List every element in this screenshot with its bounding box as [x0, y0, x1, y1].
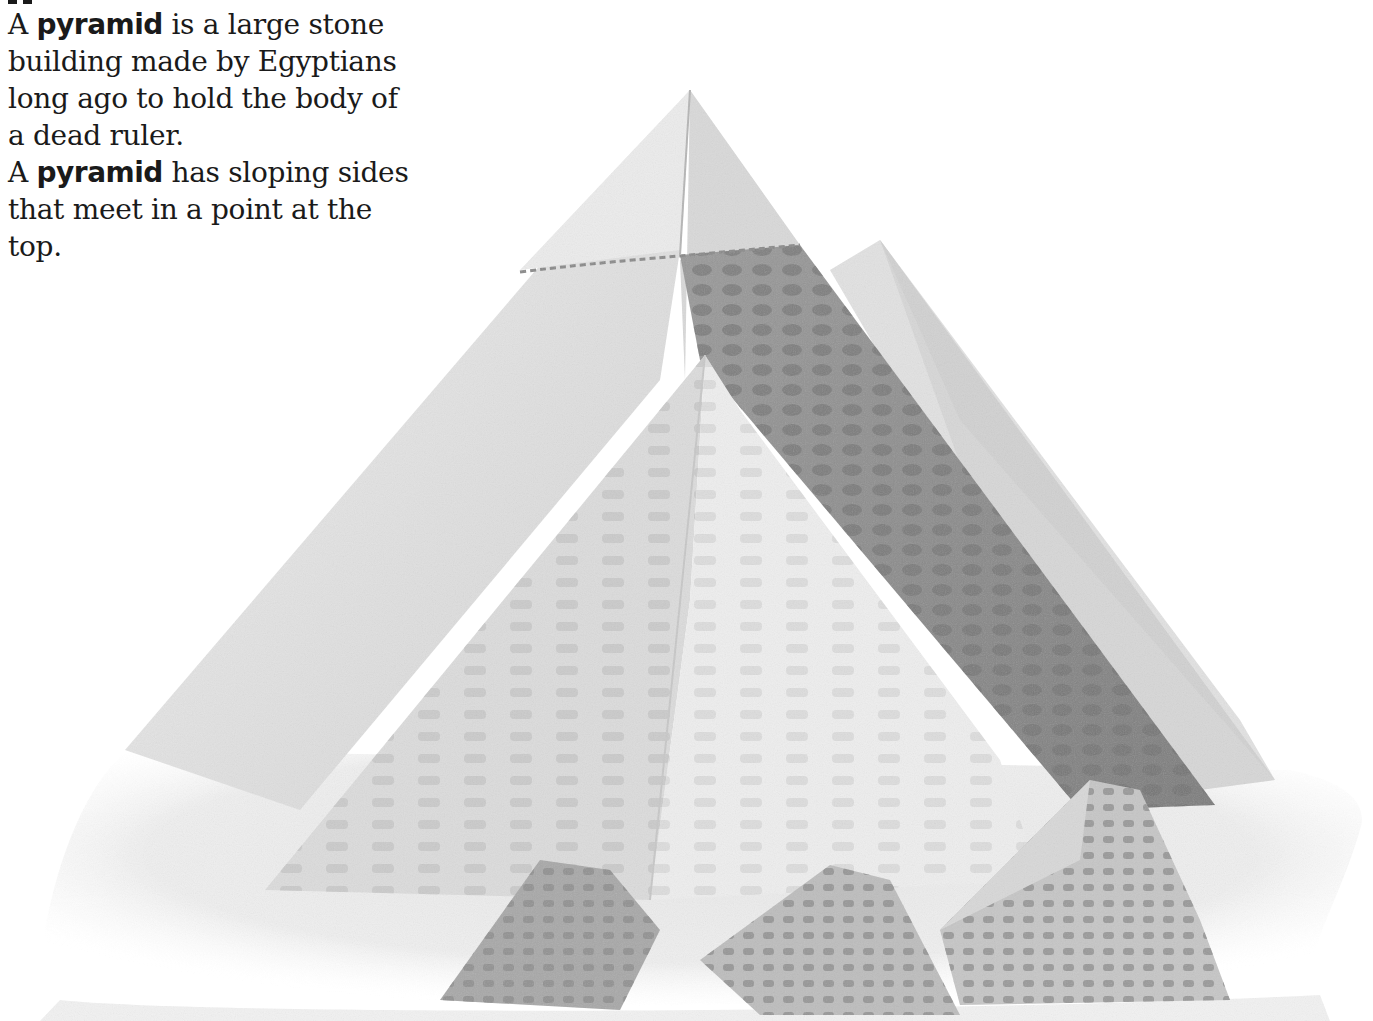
definition-sentence-2: A pyramid has sloping sides that meet in…	[8, 154, 418, 265]
definition-sentence-1: A pyramid is a large stone building made…	[8, 6, 418, 154]
keyword-bold: pyramid	[37, 8, 163, 41]
definition-text: A pyramid is a large stone building made…	[8, 6, 418, 265]
sentence-prefix: A	[8, 156, 37, 189]
sentence-prefix: A	[8, 8, 37, 41]
keyword-bold: pyramid	[37, 156, 163, 189]
